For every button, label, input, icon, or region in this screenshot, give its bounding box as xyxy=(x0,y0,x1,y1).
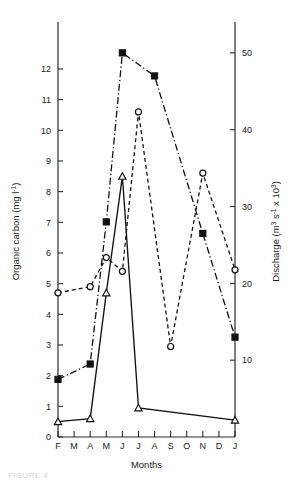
x-axis-tick-label: J xyxy=(136,441,141,451)
x-axis-tick-label: A xyxy=(87,441,93,451)
marker-filled-square xyxy=(151,73,157,79)
left-axis-tick-label: 6 xyxy=(46,248,51,258)
right-axis-tick-label: 50 xyxy=(242,48,252,58)
x-axis-tick-label: M xyxy=(103,441,111,451)
x-axis-title: Months xyxy=(131,459,162,470)
svg-text:Organic carbon (mg l-1): Organic carbon (mg l-1) xyxy=(10,183,22,281)
marker-filled-square xyxy=(200,230,206,236)
left-axis-tick-label: 10 xyxy=(41,126,51,136)
x-axis-tick-label: D xyxy=(216,441,223,451)
left-axis-tick-label: 11 xyxy=(42,95,51,105)
right-axis-tick-label: 30 xyxy=(242,202,252,212)
marker-open-triangle xyxy=(119,173,126,180)
left-axis-title: Organic carbon (mg l-1) xyxy=(10,183,22,281)
figure-container: 01234567891011121020304050FMAMJJASONDJ O… xyxy=(0,0,295,487)
x-axis-tick-label: J xyxy=(120,441,125,451)
axes-group: 01234567891011121020304050FMAMJJASONDJ xyxy=(41,22,252,451)
caption-fragment: FIGURE 4 xyxy=(8,471,188,485)
left-axis-tick-label: 2 xyxy=(46,371,51,381)
series-2 xyxy=(54,173,238,425)
marker-open-circle xyxy=(232,267,238,273)
series-group xyxy=(54,50,238,425)
x-axis-tick-label: N xyxy=(200,441,207,451)
chart-canvas: 01234567891011121020304050FMAMJJASONDJ O… xyxy=(0,0,295,487)
right-axis-title: Discharge (m3 s-1 x 103) xyxy=(270,181,282,282)
marker-open-circle xyxy=(135,109,141,115)
right-axis-tick-label: 10 xyxy=(242,355,252,365)
marker-open-circle xyxy=(103,255,109,261)
right-axis-tick-label: 40 xyxy=(242,125,252,135)
series-line xyxy=(58,176,235,421)
left-axis-tick-label: 4 xyxy=(46,310,51,320)
left-axis-tick-label: 0 xyxy=(46,432,51,442)
marker-open-circle xyxy=(168,344,174,350)
left-axis-tick-label: 1 xyxy=(46,402,51,412)
left-axis-tick-label: 5 xyxy=(46,279,51,289)
right-axis-tick-label: 20 xyxy=(242,279,252,289)
series-3 xyxy=(55,50,238,383)
x-axis-tick-label: J xyxy=(233,441,238,451)
left-axis-tick-label: 3 xyxy=(46,340,51,350)
marker-open-circle xyxy=(200,170,206,176)
x-axis-tick-label: O xyxy=(183,441,190,451)
left-axis-tick-label: 9 xyxy=(46,156,51,166)
x-axis-tick-label: F xyxy=(55,441,61,451)
marker-open-circle xyxy=(55,290,61,296)
marker-filled-square xyxy=(232,334,238,340)
marker-filled-square xyxy=(103,219,109,225)
left-axis-tick-label: 7 xyxy=(46,218,51,228)
marker-open-triangle xyxy=(103,289,110,296)
x-axis-tick-label: M xyxy=(70,441,78,451)
marker-open-circle xyxy=(119,268,125,274)
left-axis-tick-label: 12 xyxy=(41,64,51,74)
marker-filled-square xyxy=(87,361,93,367)
x-axis-tick-label: S xyxy=(168,441,174,451)
series-1 xyxy=(55,109,238,350)
x-axis-tick-label: A xyxy=(152,441,158,451)
marker-filled-square xyxy=(55,376,61,382)
marker-open-circle xyxy=(87,284,93,290)
series-line xyxy=(58,112,235,347)
left-axis-tick-label: 8 xyxy=(46,187,51,197)
marker-filled-square xyxy=(119,50,125,56)
svg-text:Discharge (m3 s-1 x 103): Discharge (m3 s-1 x 103) xyxy=(270,181,282,282)
series-line xyxy=(58,53,235,380)
